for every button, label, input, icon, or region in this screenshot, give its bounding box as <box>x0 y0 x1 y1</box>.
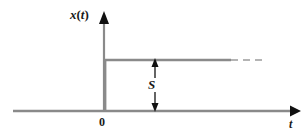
step-amplitude-label: S <box>148 78 155 91</box>
step-signal-curve <box>104 60 264 111</box>
x-axis-arrowhead-icon <box>99 11 109 24</box>
x-axis-label: t <box>289 118 292 130</box>
y-axis-label-close-paren: ) <box>84 7 88 22</box>
origin-label: 0 <box>99 116 105 128</box>
t-axis-arrowhead-icon <box>290 106 301 117</box>
plot-canvas <box>0 0 308 140</box>
y-axis-label: x(t) <box>70 8 89 21</box>
t-axis <box>13 106 301 117</box>
step-function-figure: x(t) t 0 S <box>0 0 308 140</box>
